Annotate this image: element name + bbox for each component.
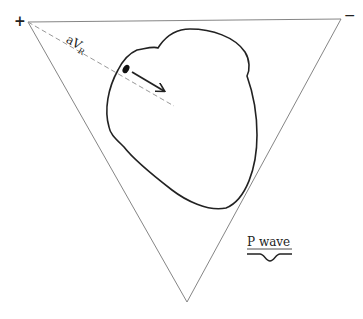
positive-pole-label: + bbox=[14, 13, 26, 29]
einthoven-triangle bbox=[28, 19, 341, 302]
p-wave-glyph-icon bbox=[247, 254, 292, 261]
svg-text:aVR: aVR bbox=[63, 32, 91, 57]
negative-pole-label: − bbox=[344, 7, 356, 23]
avr-label: aVR bbox=[63, 32, 91, 57]
p-wave-vector-arrow bbox=[132, 72, 164, 91]
avr-axis-line bbox=[28, 22, 174, 106]
sa-node-dot bbox=[121, 64, 131, 75]
heart-outline bbox=[107, 29, 257, 209]
diagram-canvas: + − aVR P wave bbox=[0, 0, 363, 319]
p-wave-label: P wave bbox=[247, 235, 290, 249]
